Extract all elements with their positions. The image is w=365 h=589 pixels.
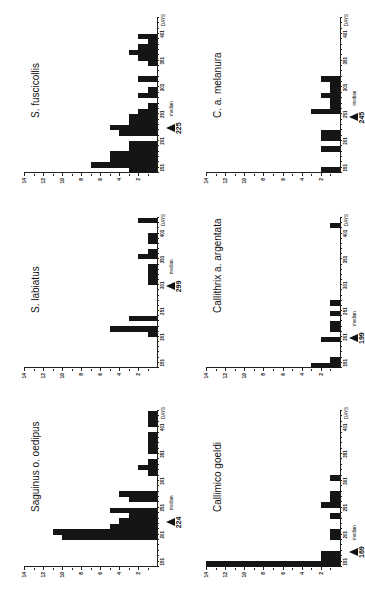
x-tick-label: 301 (160, 79, 165, 95)
chart-title: Callimico goeldi (212, 442, 223, 512)
y-tick (206, 173, 207, 176)
x-tick (340, 258, 342, 259)
x-tick (157, 442, 159, 443)
y-tick-label: 2 (135, 572, 141, 582)
x-tick (157, 113, 159, 114)
histogram-bar (129, 141, 158, 147)
y-tick (53, 369, 54, 371)
chart-panel: Saguinus o. oedipus246810121415120125130… (0, 393, 182, 589)
y-tick (302, 173, 303, 176)
histogram-bar (321, 135, 340, 141)
x-tick-label: 201 (160, 133, 165, 149)
x-tick (340, 331, 342, 332)
x-tick (340, 119, 342, 120)
histogram-bar (148, 443, 158, 449)
y-tick-label: 8 (78, 178, 84, 188)
y-tick (216, 369, 217, 371)
y-tick (72, 369, 73, 371)
x-tick (340, 437, 342, 438)
histogram-bar (330, 87, 340, 93)
x-tick-label: 301 (343, 79, 348, 95)
x-tick (157, 453, 159, 454)
y-tick (81, 368, 82, 371)
x-tick (157, 222, 159, 223)
histogram-bar (330, 513, 340, 519)
x-tick (340, 243, 342, 244)
y-tick-label: 14 (203, 178, 209, 188)
x-tick (157, 279, 159, 280)
x-tick (340, 485, 342, 486)
median-value: 199 (358, 332, 365, 344)
x-tick (157, 289, 159, 290)
x-tick (340, 469, 342, 470)
x-tick (340, 512, 342, 513)
histogram-bar (148, 39, 158, 45)
y-tick (34, 369, 35, 371)
x-tick (340, 279, 342, 280)
x-tick (157, 300, 159, 301)
histogram-bar (148, 60, 158, 66)
histogram-bar (148, 233, 158, 238)
x-tick-label: 201 (160, 329, 165, 345)
histogram-bar (148, 416, 158, 422)
x-tick-label: 251 (160, 303, 165, 319)
median-value: 225 (175, 122, 182, 134)
y-tick (263, 567, 264, 570)
y-tick (225, 368, 226, 371)
x-tick (340, 113, 342, 114)
histogram-bar (311, 109, 340, 115)
x-tick (157, 243, 159, 244)
x-tick-label: 351 (343, 251, 348, 267)
x-tick (157, 253, 159, 254)
median-label: median (169, 101, 174, 116)
x-tick (340, 300, 342, 301)
histogram-bar (330, 103, 340, 109)
y-tick-label: 6 (97, 178, 103, 188)
histogram-bar (148, 269, 158, 274)
y-tick (254, 369, 255, 371)
y-tick-label: 6 (97, 373, 103, 383)
histogram-bar (330, 529, 340, 535)
y-tick (43, 173, 44, 176)
y-tick (110, 568, 111, 570)
x-tick (340, 129, 342, 130)
y-tick (263, 173, 264, 176)
histogram-bar (330, 98, 340, 104)
y-tick (81, 567, 82, 570)
x-tick (340, 17, 342, 18)
x-tick (340, 86, 342, 87)
x-tick (157, 561, 159, 562)
y-tick (110, 369, 111, 371)
y-tick-label: 4 (116, 572, 122, 582)
y-tick (292, 369, 293, 371)
histogram-bar (138, 93, 157, 99)
x-tick (157, 464, 159, 465)
x-tick (157, 315, 159, 316)
x-tick (340, 550, 342, 551)
y-tick (273, 369, 274, 371)
histogram-bar (330, 326, 340, 331)
x-tick-label: 401 (160, 419, 165, 435)
y-tick (129, 568, 130, 570)
x-tick (340, 480, 342, 481)
x-tick (340, 161, 342, 162)
x-tick (340, 238, 342, 239)
median-value: 299 (175, 281, 182, 293)
x-unit-label: DAYS (344, 407, 349, 419)
y-tick-label: 6 (280, 178, 286, 188)
x-tick (340, 475, 342, 476)
y-tick (254, 174, 255, 176)
y-tick (235, 174, 236, 176)
x-tick (157, 367, 159, 368)
x-tick (340, 518, 342, 519)
y-tick (283, 368, 284, 371)
y-tick (244, 567, 245, 570)
x-tick (340, 33, 342, 34)
x-tick-label: 351 (343, 53, 348, 69)
x-tick (340, 233, 342, 234)
x-tick (340, 145, 342, 146)
y-tick (292, 174, 293, 176)
histogram-bar (110, 508, 158, 514)
x-tick (340, 305, 342, 306)
x-tick (340, 566, 342, 567)
